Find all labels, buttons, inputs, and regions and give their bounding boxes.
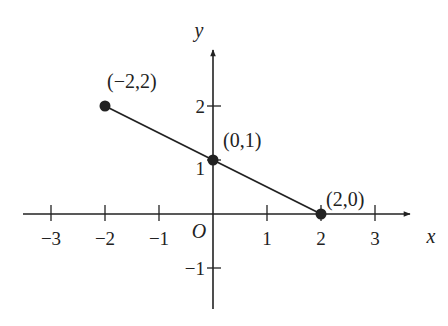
coordinate-plane: −3−2−1123−112 Oxy(−2,2)(0,1)(2,0) (0, 0, 448, 326)
origin-label: O (192, 220, 206, 242)
labels: Oxy(−2,2)(0,1)(2,0) (107, 19, 436, 247)
x-tick-label: 3 (370, 228, 380, 249)
x-tick-label: −3 (41, 228, 61, 249)
axes (23, 50, 410, 309)
x-tick-label: −1 (149, 228, 169, 249)
point-label: (−2,2) (107, 70, 157, 93)
x-tick-label: 2 (316, 228, 326, 249)
x-tick-label: 1 (262, 228, 272, 249)
y-tick-label: −1 (185, 258, 205, 279)
y-tick-label: 1 (196, 158, 206, 179)
y-axis-label: y (193, 19, 204, 42)
point-label: (2,0) (326, 188, 364, 211)
x-tick-label: −2 (95, 228, 115, 249)
data-point (316, 209, 327, 220)
point-label: (0,1) (223, 129, 261, 152)
x-axis-label: x (426, 225, 436, 247)
y-tick-label: 2 (196, 96, 206, 117)
data-point (208, 155, 219, 166)
data-point (100, 101, 111, 112)
